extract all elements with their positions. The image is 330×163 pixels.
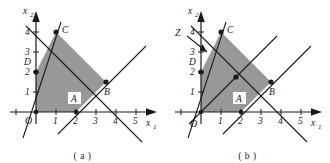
vertex-dot-D (198, 69, 203, 74)
y-tick-label-2: 2 (25, 67, 30, 77)
vertex-label-B: B (104, 87, 110, 97)
vertex-dot-B (268, 79, 273, 84)
x-axis-title-base: x (145, 118, 151, 128)
y-tick-label-1: 1 (25, 87, 30, 97)
vertex-dot-D (33, 69, 38, 74)
panel-a-caption: ( a ) (0, 151, 165, 161)
vertex-dot-C (53, 29, 58, 34)
y-tick-label-4: 4 (25, 27, 30, 37)
x-tick-label-4: 4 (113, 116, 118, 126)
x-tick-label-5: 5 (133, 116, 138, 126)
x-axis-title-base: x (310, 118, 316, 128)
panel-b: 1 2 3 4 5 1 2 3 4 O x 1 x 2 Z (165, 0, 330, 163)
x-tick-label-3: 3 (92, 116, 98, 126)
figure-container: 1 2 3 4 5 1 2 3 4 O x 1 x 2 (0, 0, 330, 163)
x-tick-label-4: 4 (278, 116, 283, 126)
x-tick-label-3: 3 (257, 116, 263, 126)
vertex-dot-C (218, 29, 223, 34)
vertex-dot-A (74, 110, 79, 115)
vertex-dot-B (103, 79, 108, 84)
x-axis-title: x 1 (145, 118, 157, 131)
x-axis-arrowhead (146, 108, 157, 116)
y-axis-title-sub: 2 (30, 11, 34, 19)
panel-b-caption: ( b ) (165, 151, 330, 161)
y-tick-label-1: 1 (190, 87, 195, 97)
origin-label: O (25, 115, 32, 126)
objective-label-Z: Z (175, 27, 181, 38)
x-axis-title-sub: 1 (318, 123, 322, 131)
vertex-dot-O (199, 110, 204, 115)
y-axis-title-base: x (22, 6, 28, 16)
panel-a: 1 2 3 4 5 1 2 3 4 O x 1 x 2 (0, 0, 165, 163)
vertex-label-D: D (188, 57, 196, 67)
vertex-label-B: B (269, 87, 275, 97)
y-tick-label-2: 2 (190, 67, 195, 77)
region-label-A: A (235, 94, 242, 104)
x-axis-title-sub: 1 (153, 123, 157, 131)
vertex-dot-A (239, 110, 244, 115)
vertex-label-C: C (62, 25, 69, 35)
y-axis-title-base: x (187, 6, 193, 16)
y-tick-label-3: 3 (24, 47, 30, 57)
x-axis-title: x 1 (310, 118, 322, 131)
y-axis-title: x 2 (187, 6, 199, 19)
x-tick-label-5: 5 (298, 116, 303, 126)
x-tick-label-2: 2 (73, 116, 78, 126)
interior-intersection-dot (233, 74, 238, 79)
x-tick-label-1: 1 (53, 116, 58, 126)
y-tick-label-3: 3 (189, 47, 195, 57)
y-axis-title: x 2 (22, 6, 34, 19)
origin-label: O (190, 118, 197, 129)
y-axis-title-sub: 2 (195, 11, 199, 19)
y-tick-label-4: 4 (190, 27, 195, 37)
x-axis-arrowhead (311, 108, 322, 116)
vertex-dot-O (34, 110, 39, 115)
x-tick-label-2: 2 (238, 116, 243, 126)
vertex-label-C: C (227, 25, 234, 35)
x-tick-label-1: 1 (218, 116, 223, 126)
region-label-A: A (70, 94, 77, 104)
vertex-label-D: D (23, 57, 31, 67)
